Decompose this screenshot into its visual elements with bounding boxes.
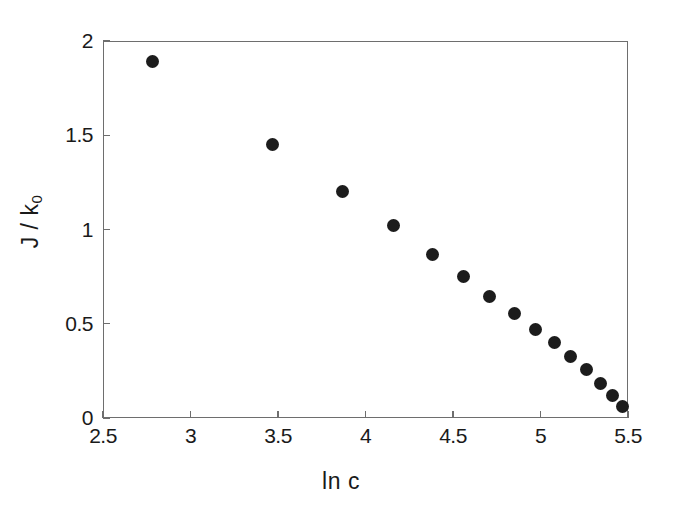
scatter-plot-figure: 2.533.544.555.500.511.52 ln c J / k0 xyxy=(0,0,682,516)
y-axis-tick xyxy=(103,323,110,324)
y-axis-tick-label: 0 xyxy=(5,406,93,430)
y-axis-tick xyxy=(103,417,110,418)
x-axis-tick xyxy=(627,411,628,418)
y-axis-tick-label: 2 xyxy=(5,29,93,53)
x-axis-tick xyxy=(190,411,191,418)
x-axis-tick xyxy=(277,411,278,418)
y-axis-label-main: J / k xyxy=(17,204,43,249)
y-axis-tick xyxy=(103,40,110,41)
x-axis-tick-label: 3 xyxy=(185,424,196,448)
y-axis-tick xyxy=(103,229,110,230)
plot-frame xyxy=(103,41,628,418)
y-axis-label: J / k0 xyxy=(17,122,44,322)
x-axis-tick xyxy=(452,411,453,418)
x-axis-tick-label: 3.5 xyxy=(264,424,292,448)
x-axis-tick-label: 5.5 xyxy=(614,424,642,448)
y-axis-tick xyxy=(103,135,110,136)
x-axis-tick xyxy=(540,411,541,418)
x-axis-tick-label: 5 xyxy=(535,424,546,448)
x-axis-tick xyxy=(365,411,366,418)
y-axis-label-subscript: 0 xyxy=(28,195,45,204)
x-axis-tick-label: 4 xyxy=(360,424,371,448)
x-axis-tick-label: 2.5 xyxy=(89,424,117,448)
x-axis-label: ln c xyxy=(0,468,682,495)
x-axis-tick-label: 4.5 xyxy=(439,424,467,448)
